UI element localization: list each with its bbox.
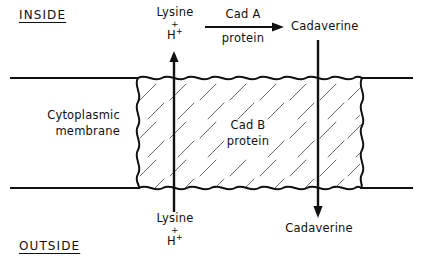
lysine-top-name: Lysine <box>157 7 194 19</box>
cada-protein-label-below: protein <box>222 32 264 45</box>
lysine-bottom-name: Lysine <box>157 213 194 225</box>
cada-reaction-arrow-head <box>272 23 284 32</box>
cada-protein-label-above: Cad A <box>226 8 261 21</box>
cada-protein-suffix: protein <box>222 31 264 45</box>
lysine-proton-bottom-label: Lysine + H+ <box>157 213 194 247</box>
proton-bottom-charge: + <box>176 233 183 242</box>
outside-compartment-label: OUTSIDE <box>19 240 80 253</box>
proton-top-charge: + <box>176 27 183 36</box>
lysine-proton-top-label: Lysine + H+ <box>157 7 194 41</box>
cadb-protein-label: Cad B protein <box>227 118 269 149</box>
proton-bottom-label: H+ <box>167 236 183 248</box>
cytoplasmic-membrane-label: Cytoplasmic membrane <box>47 108 120 139</box>
membrane-transport-diagram: INSIDE OUTSIDE Cytoplasmic membrane Cad … <box>0 0 421 268</box>
cytoplasmic-membrane-label-line2: membrane <box>47 124 120 140</box>
cadaverine-top-label: Cadaverine <box>291 20 359 33</box>
cadb-protein-label-line1: Cad B <box>227 118 269 134</box>
cadaverine-efflux-arrow-head <box>313 206 322 218</box>
inside-compartment-label: INSIDE <box>19 9 66 22</box>
cadb-protein-label-line2: protein <box>227 134 269 150</box>
cadaverine-bottom-label: Cadaverine <box>285 222 353 235</box>
cytoplasmic-membrane-label-line1: Cytoplasmic <box>47 108 120 124</box>
cada-protein-name: Cad A <box>226 7 261 21</box>
lysine-influx-arrow-head <box>169 51 178 62</box>
proton-top-label: H+ <box>167 30 183 42</box>
